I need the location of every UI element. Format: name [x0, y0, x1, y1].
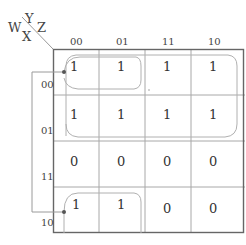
- cell-11-10: 0: [209, 155, 217, 168]
- bracket-dot-bottom: [62, 210, 66, 214]
- col-header-01: 01: [116, 37, 129, 47]
- wraparound-bracket: [32, 72, 64, 212]
- row-header-10: 10: [41, 218, 54, 228]
- row-header-00: 00: [41, 80, 54, 90]
- cell-01-11: 1: [163, 108, 171, 121]
- cell-00-10: 1: [209, 60, 217, 73]
- cell-10-10: 0: [209, 202, 217, 215]
- cell-10-01: 1: [117, 198, 125, 211]
- row-header-01: 01: [41, 126, 54, 136]
- col-header-10: 10: [208, 37, 221, 47]
- cell-01-01: 1: [117, 108, 125, 121]
- col-header-11: 11: [162, 37, 175, 47]
- cell-10-11: 0: [163, 202, 171, 215]
- cell-11-01: 0: [117, 155, 125, 168]
- corner-diagonal-line: [22, 17, 53, 49]
- stray-mark: [148, 89, 150, 91]
- cell-00-11: 1: [163, 60, 171, 73]
- cell-00-01: 1: [117, 60, 125, 73]
- cell-01-00: 1: [70, 108, 78, 121]
- cell-01-10: 1: [209, 108, 217, 121]
- row-header-11: 11: [41, 172, 54, 182]
- cell-00-00: 1: [70, 60, 78, 73]
- bracket-dot-top: [62, 70, 66, 74]
- cell-11-00: 0: [70, 155, 78, 168]
- cell-11-11: 0: [163, 155, 171, 168]
- cell-10-00: 1: [72, 198, 80, 211]
- col-header-00: 00: [70, 37, 83, 47]
